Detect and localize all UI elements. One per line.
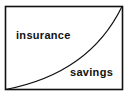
diagram-frame	[0, 0, 129, 94]
region-label-savings: savings	[70, 66, 113, 78]
region-label-insurance: insurance	[16, 29, 71, 41]
insurance-savings-diagram: insurance savings	[0, 0, 129, 94]
